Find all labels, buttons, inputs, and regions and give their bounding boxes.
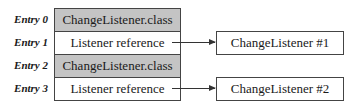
entry-label-0: Entry 0 bbox=[2, 8, 48, 31]
arrow-icon bbox=[172, 42, 215, 43]
target-listener-1: ChangeListener #1 bbox=[216, 31, 344, 55]
entry-cell-3: Listener reference bbox=[55, 78, 180, 100]
listener-array: ChangeListener.class Listener reference … bbox=[54, 8, 181, 101]
arrow-icon bbox=[172, 88, 215, 89]
target-listener-2: ChangeListener #2 bbox=[216, 77, 344, 101]
entry-cell-1: Listener reference bbox=[55, 32, 180, 55]
entry-label-1: Entry 1 bbox=[2, 31, 48, 54]
entry-cell-0: ChangeListener.class bbox=[55, 9, 180, 32]
entry-cell-2: ChangeListener.class bbox=[55, 55, 180, 78]
entry-label-3: Entry 3 bbox=[2, 77, 48, 100]
entry-label-2: Entry 2 bbox=[2, 54, 48, 77]
